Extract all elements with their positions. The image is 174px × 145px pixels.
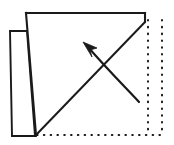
diagram-canvas	[0, 0, 174, 145]
paper-folding-diagram	[0, 0, 174, 145]
